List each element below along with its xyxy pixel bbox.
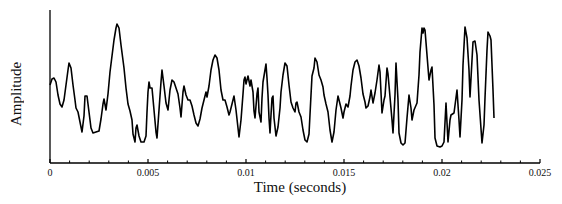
chart-figure: 00.0050.010.0150.020.025 Amplitude Time … (0, 0, 562, 204)
x-tick-label: 0.02 (433, 167, 451, 178)
x-tick-label: 0.01 (237, 167, 255, 178)
waveform-line (50, 24, 494, 147)
y-axis-label: Amplitude (6, 54, 26, 134)
x-tick-label: 0 (48, 167, 53, 178)
plot-area (0, 0, 562, 204)
x-tick-label: 0.005 (137, 167, 160, 178)
x-tick-label: 0.025 (529, 167, 552, 178)
x-axis-label: Time (seconds) (200, 179, 400, 196)
x-tick-label: 0.015 (333, 167, 356, 178)
